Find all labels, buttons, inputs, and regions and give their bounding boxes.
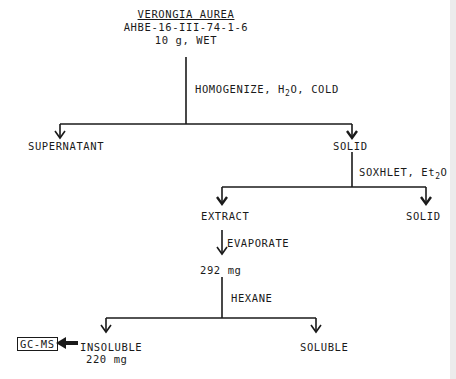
hexane-operation: HEXANE bbox=[231, 292, 273, 304]
solid-label-2: SOLID bbox=[406, 210, 441, 222]
gc-ms-box: GC-MS bbox=[17, 337, 58, 351]
insoluble-label: INSOLUBLE bbox=[80, 341, 142, 353]
extract-label: EXTRACT bbox=[201, 210, 249, 222]
insoluble-amount: 220 mg bbox=[86, 353, 128, 365]
supernatant-label: SUPERNATANT bbox=[28, 140, 104, 152]
solid-label-1: SOLID bbox=[333, 140, 368, 152]
sample-amount: 10 g, WET bbox=[130, 34, 242, 46]
species-name: VERONGIA AUREA bbox=[130, 8, 242, 20]
step2-operation: SOXHLET, Et2O bbox=[359, 166, 447, 178]
soluble-label: SOLUBLE bbox=[300, 341, 348, 353]
step1-operation: HOMOGENIZE, H2O, COLD bbox=[195, 83, 339, 95]
arrow-left-icon bbox=[56, 337, 78, 349]
evaporate-operation: EVAPORATE bbox=[227, 237, 289, 249]
specimen-id: AHBE-16-III-74-1-6 bbox=[106, 21, 266, 33]
residue-amount: 292 mg bbox=[200, 264, 242, 276]
flow-lines bbox=[0, 0, 456, 379]
